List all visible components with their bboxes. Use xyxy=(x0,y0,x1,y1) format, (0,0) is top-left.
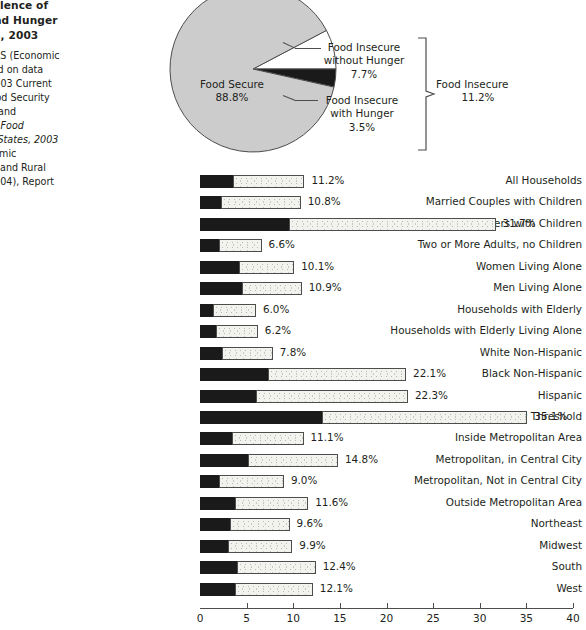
bar-stacked xyxy=(200,518,290,531)
source-line-2: ice) based on data xyxy=(0,63,174,77)
x-axis-tick xyxy=(573,603,574,608)
bar-segment-with-hunger xyxy=(200,518,230,531)
bar-segment-with-hunger xyxy=(200,347,222,360)
figure-title-line-2: urity and Hunger xyxy=(0,13,174,28)
bar-segment-without-hunger xyxy=(256,390,408,403)
bar-category-label: South xyxy=(390,560,586,572)
bar-segment-with-hunger xyxy=(200,583,235,596)
bar-segment-without-hunger xyxy=(232,432,304,445)
bar-category-label: Households with Elderly Living Alone xyxy=(390,324,586,336)
bar-segment-without-hunger xyxy=(219,239,262,252)
bar-category-label: Inside Metropolitan Area xyxy=(390,431,586,443)
bar-stacked xyxy=(200,432,304,445)
bar-stacked xyxy=(200,196,301,209)
x-axis-tick-label: 20 xyxy=(372,612,402,624)
bar-segment-with-hunger xyxy=(200,196,221,209)
bar-category-label: Metropolitan, in Central City xyxy=(390,453,586,465)
bar-segment-without-hunger xyxy=(216,325,258,338)
source-line-3: ember 2003 Current xyxy=(0,77,174,91)
x-axis-tick-label: 30 xyxy=(465,612,495,624)
bar-value-label: 6.6% xyxy=(269,238,295,250)
source-line-6: ousehold Food xyxy=(0,119,174,133)
bar-category-label: Married Couples with Children xyxy=(390,195,586,207)
bar-value-label: 6.0% xyxy=(263,303,289,315)
bar-value-label: 12.1% xyxy=(320,582,353,594)
bar-stacked xyxy=(200,454,338,467)
bar-segment-without-hunger xyxy=(219,475,284,488)
x-axis-tick xyxy=(480,603,481,608)
pie-label-with-hunger-line1: Food Insecure xyxy=(300,94,424,107)
x-axis-tick xyxy=(526,603,527,608)
pie-label-food-insecure-total: Food Insecure 11.2% xyxy=(436,78,534,105)
bar-stacked xyxy=(200,304,256,317)
pie-label-insecure-without-hunger: Food Insecure without Hunger 7.7% xyxy=(306,41,422,81)
bar-value-label: 22.3% xyxy=(415,389,448,401)
bar-value-label: 9.9% xyxy=(299,539,325,551)
bar-segment-without-hunger xyxy=(248,454,338,467)
source-line-6-text: ousehold Food xyxy=(0,120,24,131)
source-line-7-text: e United States, 2003 xyxy=(0,134,58,145)
bar-value-label: 14.8% xyxy=(345,453,378,465)
pie-label-insecure-with-hunger: Food Insecure with Hunger 3.5% xyxy=(300,94,424,134)
x-axis-tick-label: 40 xyxy=(558,612,586,624)
bar-segment-with-hunger xyxy=(200,475,219,488)
bar-segment-without-hunger xyxy=(322,411,527,424)
bar-segment-without-hunger xyxy=(230,518,290,531)
bar-segment-without-hunger xyxy=(222,347,272,360)
bar-segment-without-hunger xyxy=(221,196,301,209)
bar-stacked xyxy=(200,475,284,488)
bar-segment-with-hunger xyxy=(200,175,233,188)
bar-value-label: 11.6% xyxy=(315,496,348,508)
x-axis-tick-label: 10 xyxy=(278,612,308,624)
bar-segment-with-hunger xyxy=(200,261,239,274)
bar-category-label: White Non-Hispanic xyxy=(390,346,586,358)
bar-value-label: 6.2% xyxy=(265,324,291,336)
x-axis-tick xyxy=(433,603,434,608)
bar-stacked xyxy=(200,218,496,231)
x-axis-tick xyxy=(387,603,388,608)
bar-stacked xyxy=(200,390,408,403)
bar-segment-without-hunger xyxy=(242,282,302,295)
bar-segment-without-hunger xyxy=(289,218,496,231)
bar-stacked xyxy=(200,497,308,510)
x-axis-tick-label: 5 xyxy=(232,612,262,624)
bar-stacked xyxy=(200,583,313,596)
bar-category-label: Women Living Alone xyxy=(390,260,586,272)
x-axis-tick-label: 0 xyxy=(185,612,215,624)
bar-value-label: 11.1% xyxy=(311,431,344,443)
bar-segment-with-hunger xyxy=(200,540,228,553)
pie-label-without-hunger-line2: without Hunger xyxy=(306,54,422,67)
pie-label-total-value: 11.2% xyxy=(436,91,520,104)
bar-segment-with-hunger xyxy=(200,561,237,574)
bar-stacked xyxy=(200,368,406,381)
pie-label-without-hunger-line1: Food Insecure xyxy=(306,41,422,54)
pie-label-food-secure-value: 88.8% xyxy=(186,91,278,104)
source-line-8: /A: Economic xyxy=(0,147,174,161)
bar-segment-without-hunger xyxy=(239,261,294,274)
bar-segment-without-hunger xyxy=(237,561,315,574)
bar-segment-without-hunger xyxy=(235,583,313,596)
x-axis-tick-label: 35 xyxy=(511,612,541,624)
bar-value-label: 7.8% xyxy=(280,346,306,358)
source-line-5: [M. Nord and xyxy=(0,105,174,119)
x-axis-line xyxy=(200,608,573,609)
source-line-1: red by ERS (Economic xyxy=(0,49,174,63)
bar-segment-without-hunger xyxy=(213,304,256,317)
bar-segment-with-hunger xyxy=(200,239,219,252)
bar-category-label: All Households xyxy=(390,174,586,186)
pie-label-without-hunger-value: 7.7% xyxy=(306,68,422,81)
pie-label-with-hunger-value: 3.5% xyxy=(300,121,424,134)
bar-value-label: 11.2% xyxy=(311,174,344,186)
bar-category-label: Two or More Adults, no Children xyxy=(390,238,586,250)
pie-label-total-name: Food Insecure xyxy=(436,78,534,91)
bar-value-label: 9.0% xyxy=(291,474,317,486)
bar-value-label: 9.6% xyxy=(297,517,323,529)
bar-value-label: 12.4% xyxy=(323,560,356,572)
bar-segment-without-hunger xyxy=(233,175,305,188)
bar-stacked xyxy=(200,561,316,574)
bar-segment-with-hunger xyxy=(200,325,216,338)
bar-value-label: 10.1% xyxy=(301,260,334,272)
bar-segment-with-hunger xyxy=(200,368,268,381)
bar-stacked xyxy=(200,411,527,424)
pie-label-food-secure-name: Food Secure xyxy=(186,78,278,91)
